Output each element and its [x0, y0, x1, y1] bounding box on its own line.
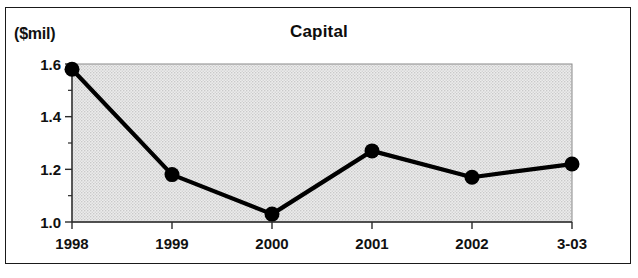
data-point-marker: [365, 143, 380, 158]
x-axis: 199819992000200120023-03: [55, 222, 587, 252]
y-axis-tick-labels: 1.01.21.41.6: [40, 56, 62, 231]
data-point-marker: [165, 167, 180, 182]
x-axis-tick-labels: 199819992000200120023-03: [55, 235, 587, 252]
line-chart-plot: 1.01.21.41.6 199819992000200120023-03: [0, 0, 638, 278]
x-tick-label: 2000: [255, 235, 288, 252]
data-point-marker: [65, 62, 80, 77]
x-tick-label: 3-03: [557, 235, 587, 252]
y-tick-label: 1.4: [40, 108, 62, 125]
y-tick-label: 1.0: [40, 214, 61, 231]
x-axis-ticks: [72, 222, 572, 229]
chart-figure: ($mil) Capital 1.01.21.41.6 199819992000…: [0, 0, 638, 278]
data-point-marker: [265, 207, 280, 222]
y-axis: 1.01.21.41.6: [40, 56, 72, 231]
x-tick-label: 2001: [355, 235, 388, 252]
plot-area-background: [72, 64, 572, 222]
data-point-marker: [565, 157, 580, 172]
x-tick-label: 1998: [55, 235, 88, 252]
y-tick-label: 1.6: [40, 56, 61, 73]
x-tick-label: 1999: [155, 235, 188, 252]
x-tick-label: 2002: [455, 235, 488, 252]
data-point-marker: [465, 170, 480, 185]
y-tick-label: 1.2: [40, 161, 61, 178]
